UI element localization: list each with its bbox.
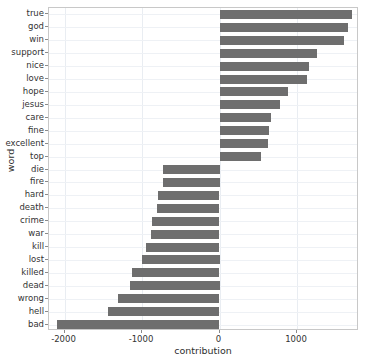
y-tick-mark (45, 104, 48, 105)
y-tick-mark (45, 156, 48, 157)
bar (220, 113, 271, 122)
y-tick-label: hope (0, 86, 44, 96)
gridline-horizontal (49, 105, 357, 106)
y-tick-mark (45, 65, 48, 66)
bar (152, 217, 219, 226)
y-tick-label: true (0, 8, 44, 18)
bar (132, 268, 220, 277)
y-tick-label: nice (0, 60, 44, 70)
y-tick-mark (45, 298, 48, 299)
x-tick-mark (219, 330, 220, 333)
bar (130, 281, 219, 290)
bar (146, 243, 219, 252)
y-tick-label: fine (0, 125, 44, 135)
gridline-horizontal (49, 157, 357, 158)
y-tick-mark (45, 194, 48, 195)
bar (220, 139, 268, 148)
y-tick-label: jesus (0, 99, 44, 109)
y-tick-label: killed (0, 267, 44, 277)
x-tick-label: -1000 (129, 334, 154, 344)
gridline-horizontal (49, 66, 357, 67)
bar (220, 152, 261, 161)
y-tick-label: dead (0, 280, 44, 290)
y-tick-mark (45, 246, 48, 247)
bar (220, 36, 344, 45)
bar (220, 100, 280, 109)
bar (151, 230, 220, 239)
y-tick-mark (45, 272, 48, 273)
y-tick-label: death (0, 202, 44, 212)
y-tick-mark (45, 220, 48, 221)
bar (220, 49, 318, 58)
y-tick-label: love (0, 73, 44, 83)
y-tick-mark (45, 285, 48, 286)
bar (220, 87, 289, 96)
y-tick-label: kill (0, 241, 44, 251)
x-axis-title: contribution (48, 345, 358, 356)
gridline-horizontal (49, 131, 357, 132)
y-tick-label: bad (0, 319, 44, 329)
gridline-horizontal (49, 92, 357, 93)
y-tick-mark (45, 52, 48, 53)
y-axis-title: word (5, 141, 16, 181)
y-tick-label: lost (0, 254, 44, 264)
y-tick-mark (45, 13, 48, 14)
y-tick-label: support (0, 47, 44, 57)
y-tick-mark (45, 233, 48, 234)
bar (157, 204, 220, 213)
bar (220, 62, 309, 71)
gridline-horizontal (49, 79, 357, 80)
y-tick-mark (45, 311, 48, 312)
y-tick-label: hell (0, 306, 44, 316)
x-tick-label: 1000 (285, 334, 307, 344)
y-tick-label: hard (0, 189, 44, 199)
bar (118, 294, 220, 303)
y-tick-mark (45, 207, 48, 208)
y-tick-mark (45, 259, 48, 260)
y-tick-label: god (0, 21, 44, 31)
y-tick-mark (45, 143, 48, 144)
bar (220, 10, 353, 19)
y-tick-mark (45, 117, 48, 118)
y-tick-label: war (0, 228, 44, 238)
bar-chart-figure: truegodwinsupportnicelovehopejesuscarefi… (0, 0, 372, 364)
x-tick-label: 0 (216, 334, 221, 344)
bar (108, 307, 220, 316)
gridline-horizontal (49, 144, 357, 145)
gridline-horizontal (49, 118, 357, 119)
plot-area (48, 7, 358, 330)
x-tick-mark (296, 330, 297, 333)
bar (57, 320, 219, 329)
x-tick-label: -2000 (51, 334, 76, 344)
gridline-vertical (65, 8, 66, 329)
x-tick-mark (64, 330, 65, 333)
y-tick-label: wrong (0, 293, 44, 303)
y-tick-mark (45, 169, 48, 170)
bar (163, 178, 219, 187)
y-tick-label: crime (0, 215, 44, 225)
bar (163, 165, 219, 174)
x-tick-mark (141, 330, 142, 333)
y-tick-mark (45, 181, 48, 182)
bar (158, 191, 220, 200)
y-tick-mark (45, 91, 48, 92)
y-tick-mark (45, 26, 48, 27)
y-tick-label: care (0, 112, 44, 122)
bar (220, 75, 307, 84)
y-tick-mark (45, 130, 48, 131)
bar (220, 23, 349, 32)
y-tick-mark (45, 78, 48, 79)
bar (142, 255, 220, 264)
bar (220, 126, 270, 135)
y-tick-label: win (0, 34, 44, 44)
y-tick-mark (45, 324, 48, 325)
y-tick-mark (45, 39, 48, 40)
